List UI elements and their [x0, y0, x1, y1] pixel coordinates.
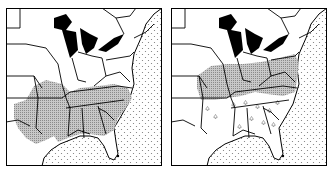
map-panel-right: [171, 8, 327, 166]
eastern-us-map-left: [6, 8, 162, 166]
eastern-us-map-right: [171, 8, 327, 166]
map-panel-left: [6, 8, 162, 166]
